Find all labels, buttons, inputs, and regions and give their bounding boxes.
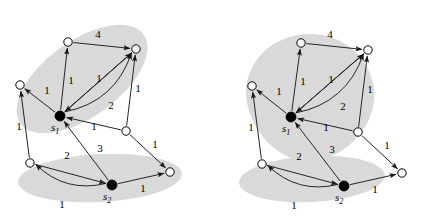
edge-n5-n3-weight: 1 bbox=[16, 120, 22, 132]
edge-n5-n3-weight: 1 bbox=[248, 121, 254, 133]
node-s2-circle[interactable] bbox=[107, 180, 117, 190]
node-left-upper-circle[interactable] bbox=[248, 82, 256, 90]
node-s1-label-subscript: 1 bbox=[286, 128, 290, 137]
node-bottom-right[interactable] bbox=[398, 169, 406, 177]
node-top-right[interactable] bbox=[132, 45, 140, 53]
lower-cluster-region bbox=[17, 150, 183, 207]
node-top-left-circle[interactable] bbox=[64, 38, 72, 46]
edge-n4-n2-weight: 1 bbox=[135, 82, 141, 94]
edge-n5-s2-weight: 2 bbox=[64, 149, 70, 161]
node-left-upper[interactable] bbox=[16, 81, 24, 89]
node-mid-right[interactable] bbox=[354, 128, 362, 136]
node-s1-label-subscript: 1 bbox=[55, 127, 59, 136]
node-s1-circle[interactable] bbox=[55, 111, 65, 121]
edge-s2-n6-weight: 1 bbox=[372, 183, 378, 195]
node-s2-circle[interactable] bbox=[339, 181, 349, 191]
edge-s1-n1-weight: 1 bbox=[68, 74, 74, 86]
edge-n4-n6-weight: 1 bbox=[384, 139, 390, 151]
node-bottom-right[interactable] bbox=[166, 168, 174, 176]
edge-n4-s1-weight: 1 bbox=[91, 120, 97, 132]
node-mid-right-circle[interactable] bbox=[354, 128, 362, 136]
edge-s1-n2-straight-weight: 1 bbox=[328, 73, 334, 85]
node-mid-right-circle[interactable] bbox=[122, 127, 130, 135]
edge-s1-n3-weight: 1 bbox=[276, 85, 282, 97]
node-top-right-circle[interactable] bbox=[132, 45, 140, 53]
node-top-right-circle[interactable] bbox=[364, 46, 372, 54]
edge-s1-n3-weight: 1 bbox=[44, 84, 50, 96]
edge-s1-n2-curved-weight: 2 bbox=[108, 99, 114, 111]
node-s2-label-subscript: 2 bbox=[339, 197, 343, 206]
figure-canvas: s1s2s1s2 14121111132111412111113211 bbox=[0, 0, 422, 218]
edge-n4-n2-weight: 1 bbox=[367, 83, 373, 95]
edge-s2-n6-weight: 1 bbox=[140, 182, 146, 194]
node-bottom-right-circle[interactable] bbox=[398, 169, 406, 177]
edge-s1-n1-weight: 1 bbox=[300, 75, 306, 87]
edge-n4-s1-weight: 1 bbox=[323, 121, 329, 133]
edge-n1-n2-weight: 4 bbox=[327, 28, 333, 40]
graph-diagram-svg: s1s2s1s2 14121111132111412111113211 bbox=[0, 0, 422, 218]
edge-s2-s1-weight: 3 bbox=[97, 142, 103, 154]
edge-n1-n2-weight: 4 bbox=[95, 28, 101, 40]
node-bottom-right-circle[interactable] bbox=[166, 168, 174, 176]
node-top-left[interactable] bbox=[297, 39, 305, 47]
edge-s1-n2-straight-weight: 1 bbox=[96, 72, 102, 84]
edge-s2-n5-weight: 1 bbox=[59, 198, 65, 210]
node-left-lower[interactable] bbox=[26, 159, 34, 167]
edge-s2-s1-weight: 3 bbox=[329, 143, 335, 155]
node-s1-circle[interactable] bbox=[286, 112, 296, 122]
edge-s2-n5-weight: 1 bbox=[291, 199, 297, 211]
node-left-lower[interactable] bbox=[258, 160, 266, 168]
node-left-upper-circle[interactable] bbox=[16, 81, 24, 89]
node-top-left-circle[interactable] bbox=[297, 39, 305, 47]
node-top-right[interactable] bbox=[364, 46, 372, 54]
upper-cluster-region bbox=[0, 4, 166, 155]
node-left-lower-circle[interactable] bbox=[26, 159, 34, 167]
edge-n4-n6-weight: 1 bbox=[152, 138, 158, 150]
node-left-lower-circle[interactable] bbox=[258, 160, 266, 168]
edge-s1-n2-curved-weight: 2 bbox=[340, 100, 346, 112]
node-top-left[interactable] bbox=[64, 38, 72, 46]
node-left-upper[interactable] bbox=[248, 82, 256, 90]
node-mid-right[interactable] bbox=[122, 127, 130, 135]
node-s2-label-subscript: 2 bbox=[107, 196, 111, 205]
edge-n5-s2-weight: 2 bbox=[296, 150, 302, 162]
